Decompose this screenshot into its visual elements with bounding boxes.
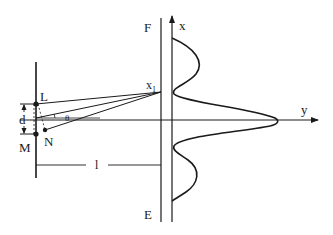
slit-L-dot <box>33 101 38 106</box>
label-x-axis: x <box>179 18 186 33</box>
point-N-dot <box>43 128 47 132</box>
label-L: L <box>40 89 48 104</box>
label-y-axis: y <box>301 102 308 117</box>
label-l: l <box>95 158 99 172</box>
label-theta: θ <box>65 113 69 123</box>
ray-from-center <box>36 92 161 118</box>
label-F: F <box>144 20 151 35</box>
label-N: N <box>44 134 54 149</box>
angle-arc <box>54 114 55 118</box>
label-d: d <box>19 112 26 127</box>
label-x1: x1 <box>146 78 156 94</box>
label-E: E <box>144 207 152 222</box>
slit-M-dot <box>33 131 38 136</box>
interference-diagram: L M N d θ l F E x1 x y <box>0 0 333 235</box>
label-M: M <box>19 140 31 155</box>
